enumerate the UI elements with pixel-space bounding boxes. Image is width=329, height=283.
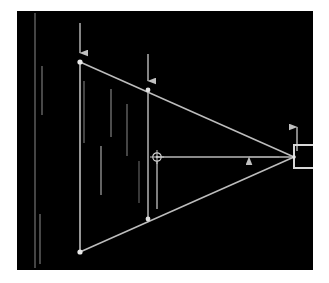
- node-d: [146, 217, 151, 222]
- frame-edge-right: [313, 0, 329, 283]
- frame-edge-left: [0, 0, 17, 283]
- member-bottom-chord: [80, 157, 294, 252]
- node-a: [77, 59, 82, 64]
- centroid-marker-icon: [150, 150, 164, 164]
- node-e: [77, 249, 82, 254]
- node-apex-c: [292, 155, 296, 159]
- free-body-diagram: [17, 11, 313, 270]
- figure-canvas: [0, 0, 329, 283]
- dimension-tick-group: [40, 66, 139, 264]
- diagram-plot-area: [17, 11, 313, 270]
- member-top-chord: [80, 62, 294, 157]
- frame-edge-bottom: [0, 270, 329, 283]
- frame-edge-top: [0, 0, 329, 11]
- node-b: [146, 88, 151, 93]
